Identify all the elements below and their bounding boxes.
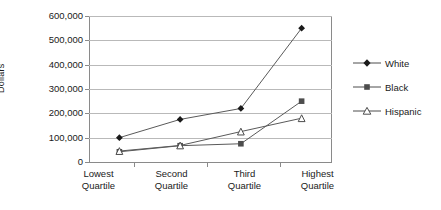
data-point-black-3 bbox=[299, 98, 305, 104]
legend-label-black: Black bbox=[385, 82, 408, 93]
legend-label-hispanic: Hispanic bbox=[385, 106, 421, 117]
data-point-hispanic-3 bbox=[298, 115, 305, 122]
series-line-white bbox=[119, 28, 301, 138]
data-point-white-1 bbox=[177, 116, 184, 123]
legend-marker-filled-diamond-icon bbox=[352, 57, 382, 69]
legend-marker-open-triangle-icon bbox=[352, 105, 382, 117]
data-point-hispanic-2 bbox=[237, 128, 244, 135]
legend-marker-filled-square-icon bbox=[352, 81, 382, 93]
series-line-black bbox=[119, 101, 301, 152]
series-markers bbox=[116, 25, 305, 155]
legend-item-hispanic[interactable]: Hispanic bbox=[352, 105, 441, 129]
data-point-black-2 bbox=[238, 141, 244, 147]
legend-label-white: White bbox=[385, 58, 409, 69]
line-chart: Dollars 600,000 500,000 400,000 300,000 … bbox=[0, 0, 441, 210]
legend-item-white[interactable]: White bbox=[352, 57, 441, 81]
data-point-white-0 bbox=[116, 134, 123, 141]
series-line-hispanic bbox=[119, 118, 301, 151]
chart-legend: White Black Hispanic bbox=[352, 57, 441, 129]
series-lines bbox=[119, 28, 301, 152]
legend-item-black[interactable]: Black bbox=[352, 81, 441, 105]
